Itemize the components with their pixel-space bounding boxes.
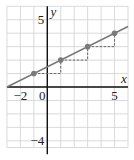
line-chart: −2055−4xy (0, 0, 134, 160)
y-tick-label: −4 (30, 133, 44, 148)
data-point (112, 30, 118, 36)
x-tick-label: −2 (13, 88, 27, 103)
x-axis-label: x (120, 71, 127, 86)
grid (7, 6, 128, 147)
x-tick-label: 0 (39, 88, 46, 103)
y-axis-label: y (48, 4, 56, 19)
data-point (31, 71, 37, 77)
line-y-equals-half-x-plus-1-5 (7, 26, 128, 87)
data-point (58, 57, 64, 63)
axes (7, 6, 128, 154)
data-line (7, 26, 128, 87)
y-tick-label: 5 (38, 12, 45, 27)
x-tick-label: 5 (111, 88, 118, 103)
data-point (85, 44, 91, 50)
